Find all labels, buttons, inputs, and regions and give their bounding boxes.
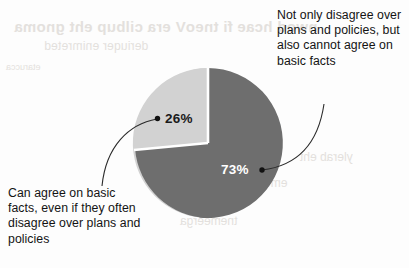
leader-dot-major [259,167,264,172]
callout-label-major: Not only disagree over plans and policie… [277,8,402,69]
pie-slice-major[interactable] [199,68,283,218]
leader-dot-minor [155,116,160,121]
slice-value-minor: 26% [165,111,193,126]
pie-chart-figure: nwod hcae fi tneoV era cilbup eht gnoma … [0,0,409,268]
pie-slice-minor-wedge [135,68,208,150]
slice-value-major: 73% [221,162,249,177]
callout-label-minor: Can agree on basic facts, even if they o… [8,186,148,247]
